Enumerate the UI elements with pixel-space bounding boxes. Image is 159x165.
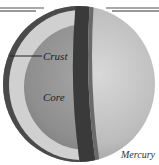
core-label: Core	[43, 92, 65, 103]
mercury-interior-diagram: Crust Core Mercury	[0, 0, 159, 165]
planet-cutaway-graphic	[0, 0, 159, 165]
crust-label: Crust	[43, 51, 67, 62]
planet-name-label: Mercury	[121, 150, 155, 160]
planet-sphere	[0, 0, 159, 165]
